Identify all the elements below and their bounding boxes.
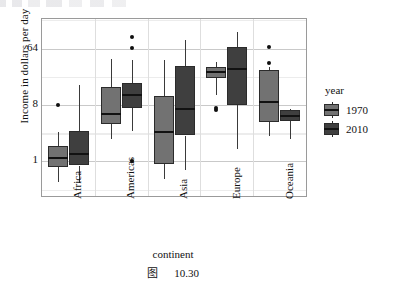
legend-label-2010: 2010 [346,123,368,135]
legend-label-1970: 1970 [346,104,368,116]
legend-item-2010[interactable]: 2010 [324,121,390,137]
x-tick-label: Oceania [283,163,295,199]
x-tick-label: Americas [124,157,136,199]
x-tick-label: Africa [71,171,83,199]
x-axis-title: continent [41,248,305,260]
caption-number: 10.30 [174,267,199,279]
legend-title: year [325,84,390,96]
x-tick-oceania: Oceania [283,199,284,200]
x-tick-africa: Africa [71,199,72,200]
legend-swatch-1970 [324,104,339,116]
x-tick-label: Asia [177,179,189,199]
x-axis-tick-labels: AfricaAmericasAsiaEuropeOceania [41,0,305,282]
x-tick-label: Europe [230,167,242,199]
figure-caption: 图10.30 [41,264,305,280]
y-tick-label: 64 [12,41,38,53]
legend-swatch-2010 [324,123,339,135]
y-axis-tick-labels: 1864 [12,0,38,282]
caption-prefix: 图 [147,267,158,279]
x-tick-asia: Asia [177,199,178,200]
y-tick-label: 8 [12,97,38,109]
y-tick-label: 1 [12,153,38,165]
x-tick-europe: Europe [230,199,231,200]
figure-container: Income in dollars per day 1864 AfricaAme… [0,0,393,282]
legend: year 1970 2010 [324,84,390,140]
x-tick-americas: Americas [124,199,125,200]
legend-item-1970[interactable]: 1970 [324,102,390,118]
